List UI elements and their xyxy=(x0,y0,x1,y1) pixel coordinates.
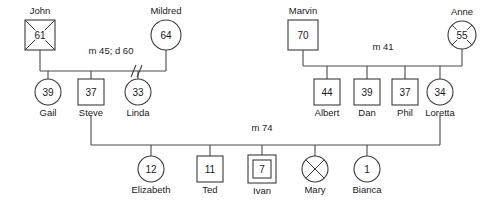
person-name-dan: Dan xyxy=(358,107,375,118)
person-age-albert: 44 xyxy=(321,87,333,98)
person-age-elizabeth: 12 xyxy=(145,164,157,175)
person-node-loretta[interactable]: 34Loretta xyxy=(425,79,455,118)
person-age-loretta: 34 xyxy=(434,87,446,98)
person-age-dan: 39 xyxy=(361,87,373,98)
relationship-label-marvin-anne: m 41 xyxy=(372,41,393,52)
genogram-diagram: 61John64Mildred70Marvin55Anne39Gail37Ste… xyxy=(0,0,489,206)
person-name-loretta: Loretta xyxy=(425,107,455,118)
person-node-steve[interactable]: 37Steve xyxy=(78,79,104,118)
person-node-mary[interactable]: Mary xyxy=(302,156,328,195)
person-name-elizabeth: Elizabeth xyxy=(131,184,170,195)
person-age-gail: 39 xyxy=(42,87,54,98)
person-name-anne: Anne xyxy=(451,6,473,17)
person-name-mary: Mary xyxy=(304,184,325,195)
person-name-gail: Gail xyxy=(40,107,57,118)
person-name-phil: Phil xyxy=(397,107,413,118)
person-node-linda[interactable]: 33Linda xyxy=(125,79,151,118)
genogram-canvas: 61John64Mildred70Marvin55Anne39Gail37Ste… xyxy=(0,0,489,206)
person-nodes-layer: 61John64Mildred70Marvin55Anne39Gail37Ste… xyxy=(25,5,476,196)
person-age-mildred: 64 xyxy=(160,30,172,41)
person-name-steve: Steve xyxy=(79,107,103,118)
person-node-mildred[interactable]: 64Mildred xyxy=(150,5,181,50)
person-name-ivan: Ivan xyxy=(253,185,271,196)
person-name-bianca: Bianca xyxy=(352,184,382,195)
person-age-ted: 11 xyxy=(205,164,216,175)
person-age-linda: 33 xyxy=(132,87,144,98)
person-age-steve: 37 xyxy=(85,87,97,98)
person-node-john[interactable]: 61John xyxy=(25,5,55,50)
relationship-marvin-anne xyxy=(303,49,462,79)
person-age-bianca: 1 xyxy=(364,164,370,175)
person-node-gail[interactable]: 39Gail xyxy=(35,79,61,118)
person-age-john: 61 xyxy=(34,30,46,41)
person-node-albert[interactable]: 44Albert xyxy=(314,79,340,118)
person-age-anne: 55 xyxy=(456,30,468,41)
person-node-elizabeth[interactable]: 12Elizabeth xyxy=(131,156,170,195)
person-age-marvin: 70 xyxy=(297,30,309,41)
person-name-ted: Ted xyxy=(202,184,217,195)
person-age-ivan: 7 xyxy=(259,164,265,175)
person-node-ted[interactable]: 11Ted xyxy=(197,156,223,195)
person-node-dan[interactable]: 39Dan xyxy=(354,79,380,118)
person-name-linda: Linda xyxy=(126,107,150,118)
relationship-label-john-mildred: m 45; d 60 xyxy=(89,45,134,56)
person-node-marvin[interactable]: 70Marvin xyxy=(288,5,318,50)
person-node-bianca[interactable]: 1Bianca xyxy=(352,156,382,195)
person-name-mildred: Mildred xyxy=(150,5,181,16)
person-name-albert: Albert xyxy=(315,107,340,118)
relationship-label-steve-loretta: m 74 xyxy=(251,122,272,133)
person-name-john: John xyxy=(30,5,51,16)
person-name-marvin: Marvin xyxy=(289,5,318,16)
person-node-phil[interactable]: 37Phil xyxy=(392,79,418,118)
person-age-phil: 37 xyxy=(399,87,411,98)
person-node-ivan[interactable]: 7Ivan xyxy=(248,155,276,196)
person-node-anne[interactable]: 55Anne xyxy=(448,6,476,49)
